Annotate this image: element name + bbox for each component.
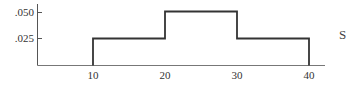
step-line-series (93, 12, 309, 66)
y-tick-label-050: .050 (0, 7, 34, 18)
x-tick-label-30: 30 (232, 70, 243, 81)
x-tick-label-10: 10 (88, 70, 99, 81)
x-tick-label-40: 40 (304, 70, 315, 81)
cropped-edge-text: S (339, 27, 346, 43)
y-tick-label-025: .025 (0, 33, 34, 44)
x-tick-label-20: 20 (160, 70, 171, 81)
